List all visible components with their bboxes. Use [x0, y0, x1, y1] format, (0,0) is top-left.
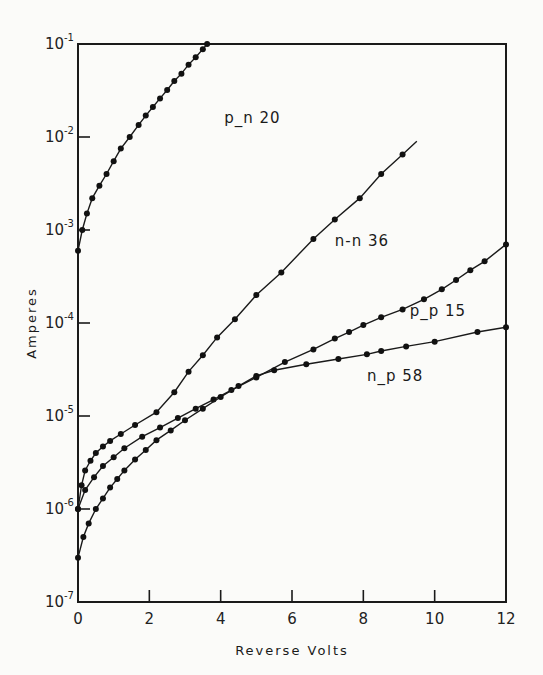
data-point — [186, 62, 192, 68]
plot-frame — [78, 44, 506, 602]
data-point — [107, 438, 113, 444]
data-point — [175, 415, 181, 421]
data-point — [168, 427, 174, 433]
series-line — [78, 44, 207, 251]
data-point — [164, 87, 170, 93]
data-point — [136, 122, 142, 128]
data-point — [75, 506, 81, 512]
y-tick-label: 10-1 — [45, 32, 74, 53]
data-point — [75, 555, 81, 561]
data-point — [335, 356, 341, 362]
x-tick-label: 6 — [287, 610, 297, 628]
data-point — [200, 406, 206, 412]
chart: 10-110-210-310-410-510-610-7 024681012 p… — [0, 0, 543, 675]
y-tick-label: 10-6 — [45, 497, 74, 518]
data-point — [132, 457, 138, 463]
series-labels: p_n 20n-n 36p_p 15n_p 58 — [224, 109, 466, 385]
data-point — [153, 437, 159, 443]
data-point — [378, 314, 384, 320]
data-point — [107, 485, 113, 491]
data-point — [400, 306, 406, 312]
data-point — [143, 447, 149, 453]
series-line — [78, 327, 506, 557]
data-point — [153, 409, 159, 415]
data-point — [193, 54, 199, 60]
data-point — [100, 463, 106, 469]
data-point — [111, 158, 117, 164]
data-point — [93, 450, 99, 456]
data-point — [91, 474, 97, 480]
data-point — [432, 339, 438, 345]
data-point — [96, 183, 102, 189]
series-label: p_p 15 — [410, 302, 466, 321]
data-point — [79, 482, 85, 488]
data-point — [143, 113, 149, 119]
data-point — [193, 406, 199, 412]
data-point — [171, 389, 177, 395]
data-point — [218, 394, 224, 400]
series-0 — [75, 41, 210, 254]
data-point — [121, 467, 127, 473]
data-point — [253, 373, 259, 379]
y-tick-label: 10-3 — [45, 218, 74, 239]
data-point — [89, 195, 95, 201]
x-tick-label: 8 — [359, 610, 369, 628]
series-label: n-n 36 — [335, 232, 389, 250]
data-point — [278, 269, 284, 275]
data-point — [121, 445, 127, 451]
data-point — [357, 195, 363, 201]
data-point — [79, 227, 85, 233]
series-2 — [75, 241, 509, 512]
data-point — [236, 383, 242, 389]
data-point — [360, 322, 366, 328]
data-point — [400, 151, 406, 157]
data-point — [474, 329, 480, 335]
data-point — [453, 277, 459, 283]
data-point — [503, 241, 509, 247]
data-point — [80, 534, 86, 540]
data-point — [439, 286, 445, 292]
data-point — [111, 454, 117, 460]
data-point — [132, 422, 138, 428]
data-point — [200, 352, 206, 358]
data-point — [139, 434, 145, 440]
y-tick-label: 10-7 — [45, 590, 74, 611]
data-point — [84, 211, 90, 217]
data-point — [182, 417, 188, 423]
y-tick-label: 10-5 — [45, 404, 74, 425]
data-point — [204, 41, 210, 47]
data-point — [127, 134, 133, 140]
data-point — [100, 495, 106, 501]
data-point — [100, 443, 106, 449]
data-point — [118, 431, 124, 437]
data-point — [82, 467, 88, 473]
data-point — [157, 95, 163, 101]
data-point — [150, 104, 156, 110]
data-point — [82, 487, 88, 493]
x-tick-label: 0 — [73, 610, 83, 628]
data-point — [104, 171, 110, 177]
series-label: n_p 58 — [367, 367, 423, 386]
data-point — [87, 458, 93, 464]
data-point — [253, 292, 259, 298]
data-point — [282, 359, 288, 365]
data-point — [403, 343, 409, 349]
x-axis: 024681012 — [73, 590, 515, 628]
x-tick-label: 10 — [425, 610, 444, 628]
data-point — [310, 346, 316, 352]
data-point — [178, 71, 184, 77]
y-axis-title: Amperes — [24, 287, 39, 359]
data-point — [171, 78, 177, 84]
data-point — [503, 324, 509, 330]
data-point — [214, 334, 220, 340]
data-point — [93, 506, 99, 512]
y-tick-label: 10-4 — [45, 311, 74, 332]
data-point — [118, 146, 124, 152]
x-tick-label: 2 — [145, 610, 155, 628]
data-point — [467, 267, 473, 273]
data-point — [482, 258, 488, 264]
data-point — [310, 236, 316, 242]
data-point — [271, 367, 277, 373]
data-point — [200, 46, 206, 52]
data-point — [86, 520, 92, 526]
